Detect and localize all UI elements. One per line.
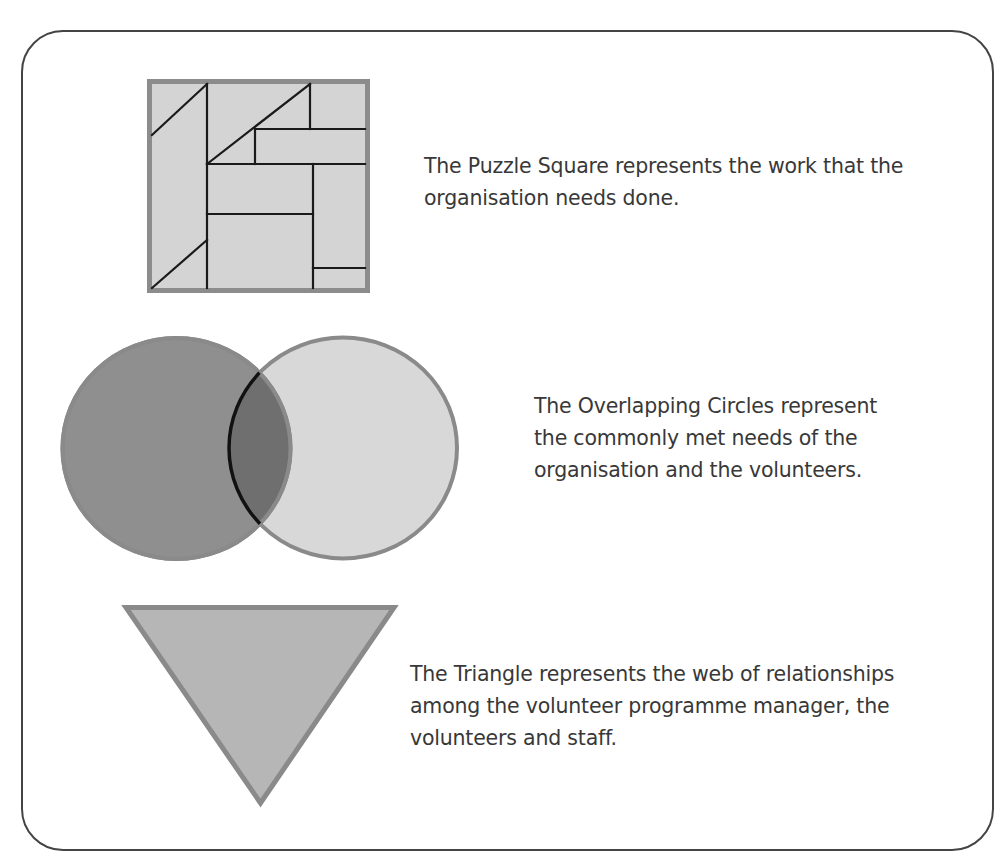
triangle-description: The Triangle represents the web of relat… — [410, 658, 894, 754]
description-line: The Triangle represents the web of relat… — [410, 658, 894, 690]
puzzle-square-description: The Puzzle Square represents the work th… — [424, 150, 903, 214]
description-line: among the volunteer programme manager, t… — [410, 690, 894, 722]
description-line: organisation needs done. — [424, 182, 903, 214]
overlapping-circles-description: The Overlapping Circles represent the co… — [534, 390, 877, 486]
description-line: the commonly met needs of the — [534, 422, 877, 454]
description-line: The Overlapping Circles represent — [534, 390, 877, 422]
puzzle-square-icon — [150, 82, 368, 291]
description-line: The Puzzle Square represents the work th… — [424, 150, 903, 182]
overlapping-circles-icon — [63, 338, 458, 560]
description-line: volunteers and staff. — [410, 722, 894, 754]
description-line: organisation and the volunteers. — [534, 454, 877, 486]
inverted-triangle-icon — [126, 608, 394, 804]
